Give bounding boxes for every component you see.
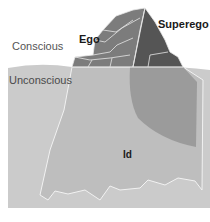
id-label: Id: [123, 149, 132, 160]
conscious-label: Conscious: [12, 40, 63, 52]
superego-label: Superego: [158, 18, 209, 30]
ego-label: Ego: [79, 33, 100, 45]
unconscious-label: Unconscious: [9, 74, 72, 86]
iceberg-diagram: [0, 0, 210, 222]
